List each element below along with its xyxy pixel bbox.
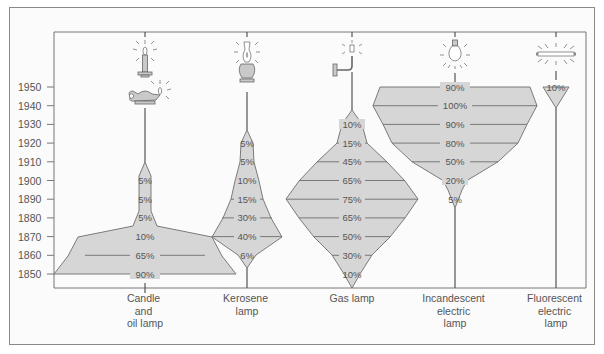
share-label-1890: 15% [237, 194, 257, 205]
y-tick-1870: 1870 [18, 231, 54, 243]
share-label-1870: 10% [135, 231, 155, 242]
share-label-1890: 5% [138, 194, 152, 205]
y-tick-1920: 1920 [18, 137, 54, 149]
y-tick-1950: 1950 [18, 81, 54, 93]
share-label-1930: 90% [445, 119, 465, 130]
share-label-1880: 5% [138, 212, 152, 223]
share-label-1880: 65% [342, 212, 362, 223]
share-label-1900: 5% [138, 175, 152, 186]
y-tick-label: 1890 [18, 193, 42, 205]
series-gas-lamp: 10% 30% 50% 65% 75% 65% 45% 15% 10% [286, 32, 418, 288]
share-label-1870: 40% [237, 231, 257, 242]
share-label-1930: 10% [342, 119, 362, 130]
share-label-1890: 75% [342, 194, 362, 205]
share-label-1920: 15% [342, 138, 362, 149]
series-fluorescent-lamp: 10% [536, 32, 576, 288]
share-label-1870: 50% [342, 231, 362, 242]
share-label-1900: 65% [342, 175, 362, 186]
y-tick-label: 1880 [18, 212, 42, 224]
x-label-candle-oil-lamp: Candle and oil lamp [127, 292, 163, 329]
share-label-1920: 80% [445, 138, 465, 149]
share-label-1880: 30% [237, 212, 257, 223]
share-label-1860: 65% [135, 250, 155, 261]
series-kerosene-lamp: 6% 40% 30% 15% 10% 5% 5% [212, 32, 282, 288]
light-bulb-icon [440, 40, 470, 69]
y-tick-1890: 1890 [18, 193, 54, 205]
share-label-1850: 90% [135, 269, 155, 280]
x-axis-labels: Candle and oil lamp Kerosene lamp Gas la… [127, 292, 585, 329]
lighting-share-chart: 1950 1940 1930 1920 1910 1900 1890 1880 … [0, 0, 604, 354]
gas-lamp-icon [333, 40, 362, 76]
y-tick-label: 1950 [18, 81, 42, 93]
x-label-gas-lamp: Gas lamp [330, 292, 375, 304]
share-label-1900: 20% [445, 175, 465, 186]
y-tick-1940: 1940 [18, 100, 54, 112]
y-tick-label: 1900 [18, 175, 42, 187]
oil-lamp-icon [129, 80, 171, 104]
share-label-1890: 5% [448, 194, 462, 205]
share-label-1860: 6% [240, 250, 254, 261]
fluorescent-tube-icon [536, 43, 576, 65]
kerosene-lamp-icon [234, 42, 260, 82]
share-label-1910: 50% [445, 156, 465, 167]
x-label-kerosene-lamp: Kerosene lamp [223, 292, 271, 317]
series-incandescent-lamp: 5% 20% 50% 80% 90% 100% 90% [373, 32, 537, 288]
y-tick-label: 1870 [18, 231, 42, 243]
y-tick-1880: 1880 [18, 212, 54, 224]
candle-icon [133, 40, 157, 77]
y-tick-label: 1940 [18, 100, 42, 112]
y-tick-label: 1930 [18, 118, 42, 130]
y-tick-label: 1860 [18, 249, 42, 261]
share-label-1860: 30% [342, 250, 362, 261]
series-candle-oil-lamp: 90% 65% 10% 5% 5% 5% [54, 32, 236, 293]
share-label-1950: 10% [546, 82, 566, 93]
y-axis: 1950 1940 1930 1920 1910 1900 1890 1880 … [18, 81, 54, 280]
x-label-incandescent-lamp: Incandescent electric lamp [422, 292, 487, 329]
y-tick-1860: 1860 [18, 249, 54, 261]
x-label-fluorescent-lamp: Fluorescent electric lamp [527, 292, 585, 329]
share-label-1910: 5% [240, 156, 254, 167]
y-tick-1930: 1930 [18, 118, 54, 130]
share-label-1910: 45% [342, 156, 362, 167]
share-label-1950: 90% [445, 82, 465, 93]
y-tick-1910: 1910 [18, 156, 54, 168]
share-label-1920: 5% [240, 138, 254, 149]
y-tick-1850: 1850 [18, 268, 54, 280]
share-label-1940: 100% [443, 100, 468, 111]
share-label-1850: 10% [342, 269, 362, 280]
y-tick-label: 1850 [18, 268, 42, 280]
y-tick-label: 1910 [18, 156, 42, 168]
y-tick-label: 1920 [18, 137, 42, 149]
y-tick-1900: 1900 [18, 175, 54, 187]
share-label-1900: 10% [237, 175, 257, 186]
